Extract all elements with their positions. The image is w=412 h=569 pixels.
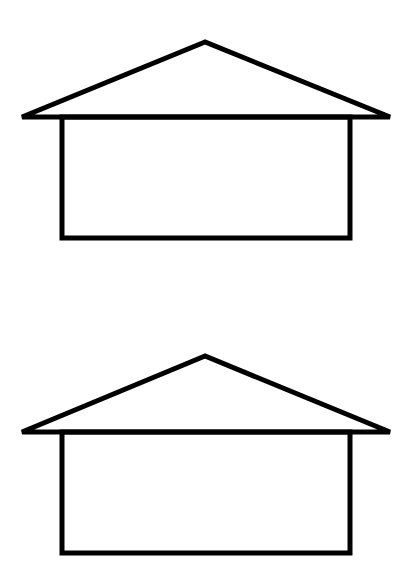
house-bottom xyxy=(22,356,390,553)
house-bottom-roof xyxy=(22,356,390,432)
diagram-canvas xyxy=(0,0,412,569)
house-bottom-body xyxy=(62,432,350,553)
house-top xyxy=(22,42,390,238)
house-top-body xyxy=(62,117,350,238)
house-top-roof xyxy=(22,42,390,117)
